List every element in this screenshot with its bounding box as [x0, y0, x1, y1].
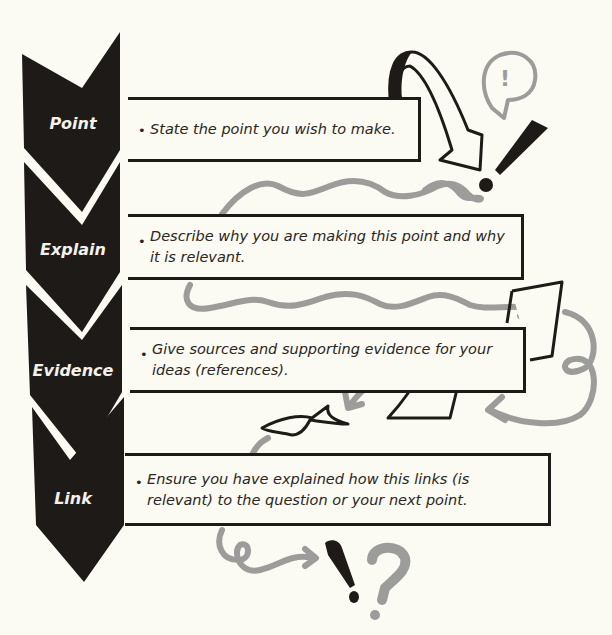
squiggle-line-5	[219, 530, 312, 571]
exclamation-dot-large	[479, 178, 493, 192]
bullet-icon: •	[135, 472, 143, 493]
stage-box-explain: • Describe why you are making this point…	[128, 214, 524, 280]
squiggle-line-2	[187, 285, 530, 309]
arrowhead-loop	[488, 397, 505, 420]
stage-label-point: Point	[18, 114, 128, 133]
paper-shape-3	[262, 406, 348, 435]
question-dot	[370, 610, 380, 620]
question-mark	[372, 548, 405, 600]
bullet-icon: •	[140, 344, 148, 365]
stage-box-link: • Ensure you have explained how this lin…	[125, 453, 551, 526]
exclamation-mark-large	[495, 120, 548, 175]
stage-text-explain: Describe why you are making this point a…	[150, 226, 511, 268]
stage-label-link: Link	[18, 489, 128, 508]
stage-text-point: State the point you wish to make.	[150, 119, 396, 140]
exclamation-mark-small	[325, 540, 355, 588]
stage-text-evidence: Give sources and supporting evidence for…	[152, 339, 513, 381]
stage-label-evidence: Evidence	[18, 361, 128, 380]
stage-box-point: • State the point you wish to make.	[128, 97, 421, 162]
stage-label-explain: Explain	[18, 240, 128, 259]
speech-bubble-glyph: !	[500, 66, 510, 91]
decoration-layer: !	[0, 0, 612, 635]
bullet-icon: •	[138, 119, 146, 140]
stage-text-link: Ensure you have explained how this links…	[147, 469, 538, 511]
exclamation-dot-small	[349, 591, 359, 603]
bullet-icon: •	[138, 231, 146, 252]
stage-box-evidence: • Give sources and supporting evidence f…	[130, 327, 526, 393]
